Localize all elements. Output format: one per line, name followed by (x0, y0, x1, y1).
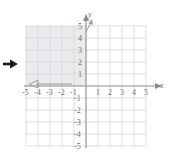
y-tick-label-5: 5 (78, 23, 82, 31)
y-tick-label-neg5: -5 (74, 143, 81, 151)
external-right-arrow-pointer-icon (3, 60, 18, 69)
x-tick-label-neg3: -3 (46, 89, 53, 97)
coordinate-plane-figure: y x -5 -4 -3 -2 -1 1 2 3 4 5 5 4 3 2 1 -… (0, 0, 169, 158)
x-tick-label-neg5: -5 (22, 89, 29, 97)
x-tick-label-5: 5 (144, 89, 148, 97)
x-tick-label-1: 1 (96, 89, 100, 97)
y-tick-label-neg2: -2 (74, 107, 81, 115)
y-tick-label-neg4: -4 (74, 131, 81, 139)
y-tick-label-neg3: -3 (74, 119, 81, 127)
x-tick-label-neg4: -4 (34, 89, 41, 97)
y-axis-label: y (88, 11, 92, 19)
y-tick-label-1: 1 (78, 71, 82, 79)
y-tick-label-4: 4 (78, 35, 82, 43)
y-tick-label-3: 3 (78, 47, 82, 55)
coordinate-plane-svg (0, 0, 169, 158)
y-tick-label-neg1: -1 (74, 95, 81, 103)
x-tick-label-neg2: -2 (58, 89, 65, 97)
y-tick-label-2: 2 (78, 59, 82, 67)
x-tick-label-2: 2 (108, 89, 112, 97)
x-tick-label-4: 4 (132, 89, 136, 97)
shaded-region-quadrant-2 (26, 26, 86, 86)
x-tick-label-3: 3 (120, 89, 124, 97)
x-axis-label: x (160, 82, 164, 90)
